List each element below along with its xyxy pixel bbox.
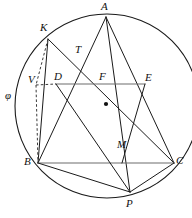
point-label-k: K [40, 22, 47, 33]
point-label-b: B [24, 156, 31, 167]
segment-V-D [36, 84, 56, 85]
point-label-e: E [145, 72, 152, 83]
point-label-f: F [99, 71, 106, 82]
point-label-p: P [126, 198, 133, 209]
segment-E-M [122, 84, 145, 163]
point-label-a: A [101, 1, 108, 12]
segment-B-P [38, 163, 130, 192]
geometry-figure: AKTVDFEBMCP φ [0, 0, 192, 218]
circle-label-phi: φ [5, 90, 11, 101]
circle-center-dot [104, 102, 108, 106]
segment-V-B [36, 85, 38, 163]
point-label-v: V [28, 74, 35, 85]
segment-C-P [130, 163, 174, 192]
point-label-m: M [117, 139, 126, 150]
circumscribed-circle-phi [15, 14, 192, 198]
point-label-t: T [75, 44, 81, 55]
point-label-c: C [176, 155, 183, 166]
point-label-d: D [54, 71, 62, 82]
geometry-canvas [0, 0, 192, 218]
